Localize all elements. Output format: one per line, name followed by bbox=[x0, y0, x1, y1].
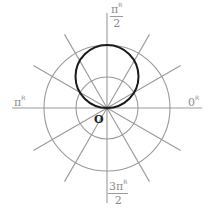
polar-diagram: πR 2 πR 0R 3πR 2 O bbox=[0, 0, 210, 214]
label-right-text: 0 bbox=[188, 96, 195, 109]
label-bottom-denominator: 2 bbox=[115, 194, 122, 206]
label-left-sup: R bbox=[21, 94, 25, 101]
label-zero: 0R bbox=[188, 96, 199, 108]
label-bottom-numerator: 3π bbox=[109, 180, 123, 193]
pole-point bbox=[105, 106, 108, 109]
label-right-sup: R bbox=[195, 94, 199, 101]
label-pi: πR bbox=[14, 96, 25, 108]
label-bottom-sup: R bbox=[123, 178, 127, 185]
polar-grid bbox=[0, 0, 210, 214]
label-top-denominator: 2 bbox=[113, 17, 120, 29]
origin-label: O bbox=[94, 113, 104, 126]
label-top-sup: R bbox=[118, 1, 122, 8]
label-3pi-over-2: 3πR 2 bbox=[108, 180, 128, 206]
label-pi-over-2: πR 2 bbox=[110, 3, 123, 29]
